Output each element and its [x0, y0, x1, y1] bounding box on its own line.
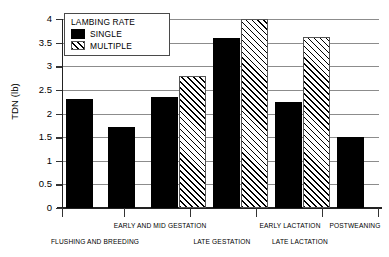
y-axis-title: TDN (lb): [9, 62, 20, 142]
legend: LAMBING RATE SINGLE MULTIPLE: [64, 13, 170, 56]
x-axis-tick: [256, 208, 257, 217]
bar: [241, 19, 268, 208]
x-axis-tick: [322, 208, 323, 217]
x-axis-tick: [124, 208, 125, 217]
x-axis-label: POSTWEANING: [329, 222, 380, 229]
legend-title: LAMBING RATE: [71, 17, 164, 27]
x-axis-label: EARLY LACTATION: [259, 222, 320, 229]
y-axis-tick: [56, 161, 62, 162]
x-axis-tick: [62, 208, 63, 217]
x-axis-label: EARLY AND MID GESTATION: [114, 222, 207, 229]
y-axis-tick: [56, 114, 62, 115]
y-axis-tick: [56, 43, 62, 44]
bar: [303, 37, 330, 208]
legend-swatch-multiple-icon: [71, 41, 85, 51]
y-axis-label: 0: [18, 203, 52, 213]
legend-label-single: SINGLE: [90, 29, 122, 39]
y-axis-label: 3.5: [18, 38, 52, 48]
bar: [66, 99, 93, 208]
y-axis-tick: [56, 137, 62, 138]
legend-swatch-single-icon: [71, 29, 85, 39]
y-axis-label: 0.5: [18, 179, 52, 189]
y-axis-label: 1.5: [18, 132, 52, 142]
y-axis-label: 1: [18, 156, 52, 166]
y-axis-label: 4: [18, 14, 52, 24]
bar: [108, 127, 135, 208]
y-axis-tick: [56, 184, 62, 185]
x-axis-label: FLUSHING AND BREEDING: [51, 238, 139, 245]
x-axis-label: LATE LACTATION: [272, 238, 328, 245]
y-axis-tick: [56, 66, 62, 67]
legend-item-multiple: MULTIPLE: [71, 41, 164, 51]
legend-label-multiple: MULTIPLE: [90, 41, 132, 51]
y-axis-label: 2.5: [18, 85, 52, 95]
y-axis-tick: [56, 19, 62, 20]
x-axis-label: LATE GESTATION: [193, 238, 250, 245]
bar: [275, 102, 302, 208]
y-axis-label: 2: [18, 109, 52, 119]
bar: [151, 97, 178, 208]
y-axis-tick: [56, 90, 62, 91]
bar: [213, 38, 240, 208]
x-axis-tick: [378, 208, 379, 217]
bar: [337, 137, 364, 208]
y-axis-label: 3: [18, 61, 52, 71]
legend-item-single: SINGLE: [71, 29, 164, 39]
bar-chart: TDN (lb) 43.532.521.510.50 FLUSHING AND …: [0, 0, 389, 257]
bar: [179, 76, 206, 208]
x-axis-tick: [190, 208, 191, 217]
